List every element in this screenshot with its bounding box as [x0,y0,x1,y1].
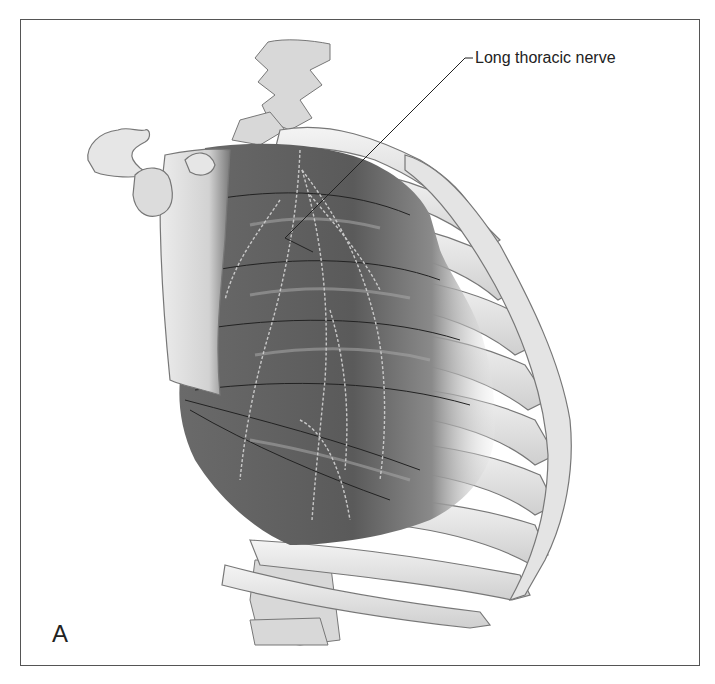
scapula [88,129,230,395]
panel-letter: A [52,620,68,648]
serratus-anterior-illustration [0,0,715,684]
long-thoracic-nerve-label: Long thoracic nerve [475,49,616,67]
